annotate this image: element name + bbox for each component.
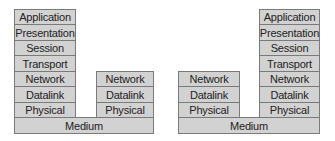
router-b-layer-physical: Physical (178, 102, 240, 118)
medium-left: Medium (14, 117, 154, 134)
router-a-layer-physical: Physical (96, 102, 154, 118)
host-b-layer-network: Network (259, 71, 320, 87)
protocol-stack-diagram: ApplicationPresentationSessionTransportN… (0, 0, 335, 141)
host-a-layer-physical: Physical (14, 102, 76, 118)
router-a-layer-network: Network (96, 71, 154, 87)
host-b-layer-datalink: Datalink (259, 86, 320, 103)
host-b-layer-application: Application (259, 9, 320, 25)
host-a-layer-application: Application (14, 9, 76, 25)
host-b-layer-session: Session (259, 40, 320, 56)
host-b-layer-physical: Physical (259, 102, 320, 118)
host-a-layer-presentation: Presentation (14, 24, 76, 41)
host-a-layer-transport: Transport (14, 55, 76, 72)
medium-right: Medium (178, 117, 320, 134)
host-a-layer-datalink: Datalink (14, 86, 76, 103)
router-b-layer-datalink: Datalink (178, 86, 240, 103)
host-b-layer-transport: Transport (259, 55, 320, 72)
host-a-layer-network: Network (14, 71, 76, 87)
router-a-layer-datalink: Datalink (96, 86, 154, 103)
host-b-layer-presentation: Presentation (259, 24, 320, 41)
router-b-layer-network: Network (178, 71, 240, 87)
host-a-layer-session: Session (14, 40, 76, 56)
